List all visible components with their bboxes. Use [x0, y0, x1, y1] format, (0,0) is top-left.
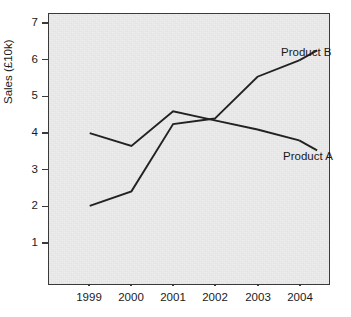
y-axis-title: Sales (£10k) — [2, 39, 14, 104]
series-line-product-a — [90, 111, 300, 146]
y-tick-label: 1 — [18, 237, 38, 249]
x-tick-label: 2000 — [108, 291, 154, 303]
x-tick-label: 2003 — [235, 291, 281, 303]
line-chart: Sales (£10k) 7654321 1999200020012002200… — [0, 0, 351, 317]
y-tick-label: 4 — [18, 127, 38, 139]
y-tick-label: 6 — [18, 54, 38, 66]
y-tick-label: 5 — [18, 90, 38, 102]
series-label-product-a: Product A — [283, 150, 333, 162]
x-tick-label: 2002 — [192, 291, 238, 303]
y-tick-label: 3 — [18, 164, 38, 176]
y-tick-label: 2 — [18, 200, 38, 212]
x-tick-label: 2001 — [150, 291, 196, 303]
series-label-product-b: Product B — [281, 46, 332, 58]
series-leader-line — [299, 140, 317, 150]
x-tick-label: 2004 — [277, 291, 323, 303]
y-tick-label: 7 — [18, 17, 38, 29]
x-tick-label: 1999 — [66, 291, 112, 303]
